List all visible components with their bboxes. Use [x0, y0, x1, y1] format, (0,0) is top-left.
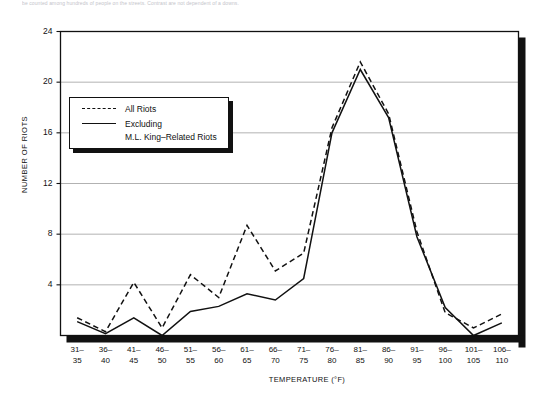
y-tick-label-24: 24 [31, 26, 53, 36]
plot-area [0, 0, 534, 397]
x-axis-title: TEMPERATURE (°F) [207, 375, 407, 384]
y-tick-label-8: 8 [31, 228, 53, 238]
legend: All Riots Excluding M.L. King–Related Ri… [69, 97, 229, 149]
chart-frame-shadow-right [519, 38, 526, 348]
legend-entry-excluding-line2: M.L. King–Related Riots [125, 132, 217, 142]
y-tick-label-20: 20 [31, 76, 53, 86]
x-tick-label-106-110: 106–110 [482, 345, 522, 366]
legend-label-excluding: Excluding [125, 119, 162, 129]
legend-label-mlk: M.L. King–Related Riots [125, 132, 217, 142]
y-tick-label-4: 4 [31, 279, 53, 289]
legend-label-all-riots: All Riots [125, 104, 156, 114]
riots-vs-temperature-chart: be counted among hundreds of people on t… [0, 0, 534, 397]
dashed-line-key-icon [81, 104, 117, 114]
chart-frame-shadow-bottom [67, 336, 525, 343]
solid-line-key-icon [81, 119, 117, 129]
y-tick-label-12: 12 [31, 178, 53, 188]
y-tick-label-16: 16 [31, 127, 53, 137]
